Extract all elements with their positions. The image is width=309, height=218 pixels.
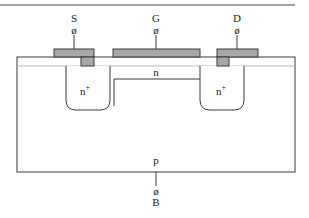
source-via (81, 57, 94, 66)
drain-label: D (233, 12, 241, 24)
channel-label: n (153, 66, 159, 78)
drain-terminal-icon: ø (234, 24, 240, 36)
gate-terminal-icon: ø (153, 24, 159, 36)
mosfet-diagram: S ø G ø D ø ø B n+ n+ n p (0, 0, 309, 218)
substrate-label: p (153, 154, 159, 166)
source-label: S (71, 12, 77, 24)
gate-label: G (152, 12, 160, 24)
drain-contact (217, 49, 258, 57)
source-contact (54, 49, 94, 57)
gate-contact (113, 49, 200, 57)
body-label: B (152, 196, 159, 208)
source-terminal-icon: ø (71, 24, 77, 36)
drain-via (217, 57, 229, 66)
